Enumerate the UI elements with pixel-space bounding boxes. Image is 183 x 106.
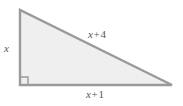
base-constant: 1 xyxy=(99,88,105,100)
right-triangle-figure: x x+4 x+1 xyxy=(0,0,183,106)
hypotenuse-constant: 4 xyxy=(101,28,107,40)
hypotenuse-label: x+4 xyxy=(88,29,106,40)
triangle-shape xyxy=(20,10,172,85)
vertical-leg-label: x xyxy=(4,43,9,54)
hypotenuse-operator: + xyxy=(93,28,100,40)
base-operator: + xyxy=(91,88,98,100)
base-label: x+1 xyxy=(86,89,104,100)
